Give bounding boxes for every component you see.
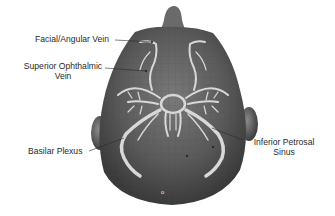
label-facial-angular-vein: Facial/Angular Vein	[35, 34, 109, 44]
label-inferior-petrosal-line1: Inferior Petrosal	[244, 137, 324, 147]
label-superior-ophthalmic-line2: Vein	[18, 71, 108, 81]
label-inferior-petrosal-sinus: Inferior Petrosal Sinus	[244, 137, 324, 157]
head-model-illustration	[0, 0, 335, 216]
label-basilar-plexus: Basilar Plexus	[28, 146, 82, 156]
origin-marker: o	[161, 189, 164, 195]
label-superior-ophthalmic-line1: Superior Ophthalmic	[18, 61, 108, 71]
anatomy-figure: Facial/Angular Vein Superior Ophthalmic …	[0, 0, 335, 216]
label-inferior-petrosal-line2: Sinus	[244, 147, 324, 157]
label-superior-ophthalmic-vein: Superior Ophthalmic Vein	[18, 61, 108, 81]
